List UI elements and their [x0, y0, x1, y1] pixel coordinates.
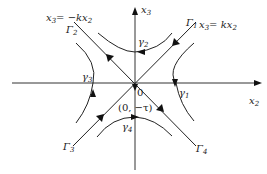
x2-axis-arrowhead-icon	[254, 80, 262, 86]
gamma2-flow-arrow-icon	[137, 49, 145, 55]
Gamma4-label: Γ4	[195, 143, 207, 156]
Gamma1-label: Γ1	[185, 17, 197, 30]
x2-axis-label: x2	[249, 95, 260, 108]
pos-line-equation: x3= kx2	[199, 19, 237, 32]
origin-label: 0	[137, 87, 143, 98]
gamma1-trajectory: γ1	[172, 43, 194, 121]
Gamma3-label: Γ3	[62, 141, 75, 154]
gamma4-label: γ4	[122, 121, 132, 134]
point-label: (0, −τ)	[118, 102, 153, 113]
gamma3-label: γ3	[82, 71, 93, 84]
x3-axis-arrowhead-icon	[132, 7, 138, 15]
gamma4-arrow-icon	[156, 104, 164, 112]
phase-portrait-diagram: x2 x3 γ1 γ2 γ3 γ4	[0, 0, 267, 174]
gamma3-arrow-icon	[96, 114, 104, 122]
Gamma2-label: Γ2	[65, 24, 78, 37]
x3-axis-label: x3	[141, 4, 152, 17]
gamma2-label: γ2	[138, 36, 149, 49]
